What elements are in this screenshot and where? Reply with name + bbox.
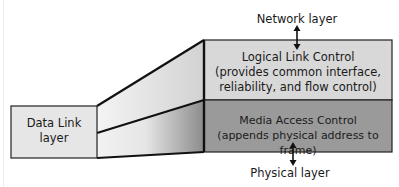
llc-desc-line1: (provides common interface, [204, 65, 392, 80]
data-link-label-line2: layer [11, 131, 97, 146]
data-link-label-line1: Data Link [11, 116, 97, 131]
llc-desc-line2: reliability, and flow control) [204, 80, 392, 95]
network-layer-label: Network layer [247, 12, 347, 26]
mac-text: Media Access Control (appends physical a… [204, 113, 392, 158]
physical-layer-label: Physical layer [240, 166, 340, 180]
data-link-label: Data Link layer [11, 116, 97, 146]
llc-text: Logical Link Control (provides common in… [204, 50, 392, 95]
mac-desc-line1: (appends physical address to frame) [204, 128, 392, 158]
llc-title: Logical Link Control [204, 50, 392, 65]
mac-title: Media Access Control [204, 113, 392, 128]
